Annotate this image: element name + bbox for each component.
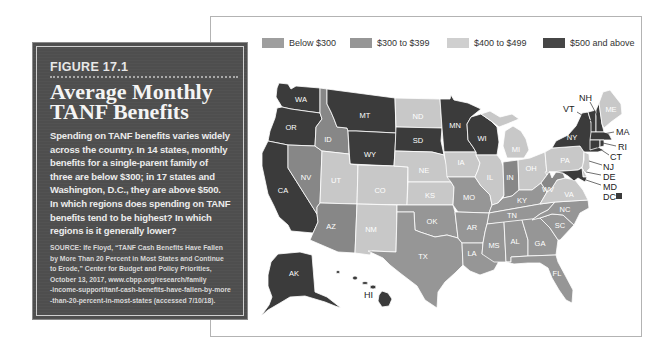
- state-label-AR: AR: [467, 223, 478, 232]
- state-label-CT: CT: [610, 152, 622, 162]
- state-label-NE: NE: [419, 166, 429, 175]
- state-label-MI: MI: [512, 145, 520, 154]
- source-line: -income-support/tanf-cash-benefits-have-…: [50, 285, 231, 296]
- description-line: across the country. In 14 states, monthl…: [50, 143, 230, 157]
- state-CO: [357, 165, 408, 205]
- state-HI: [336, 271, 392, 308]
- state-label-AZ: AZ: [326, 222, 336, 231]
- state-WY: [348, 131, 396, 166]
- state-label-AK: AK: [289, 269, 299, 278]
- leader-line-NJ: [589, 161, 602, 165]
- state-label-OH: OH: [525, 164, 536, 173]
- state-label-LA: LA: [467, 249, 476, 258]
- state-label-TX: TX: [418, 252, 428, 261]
- state-label-DE: DE: [603, 172, 616, 182]
- state-label-NM: NM: [365, 225, 377, 234]
- state-label-CA: CA: [278, 186, 288, 195]
- state-label-KS: KS: [425, 191, 435, 200]
- state-label-KY: KY: [517, 196, 527, 205]
- state-label-WI: WI: [477, 134, 486, 143]
- state-label-TN: TN: [507, 211, 517, 220]
- state-label-OR: OR: [285, 123, 297, 132]
- hi-island: [362, 282, 368, 285]
- description-line: benefits for a single-parent family of: [50, 156, 230, 170]
- state-label-NC: NC: [560, 205, 571, 214]
- state-label-GA: GA: [535, 239, 546, 248]
- state-label-FL: FL: [553, 269, 562, 278]
- state-label-PA: PA: [560, 156, 569, 165]
- state-label-MS: MS: [488, 241, 499, 250]
- state-label-SD: SD: [413, 136, 424, 145]
- state-label-ND: ND: [413, 112, 424, 121]
- state-RI: [600, 140, 604, 147]
- state-label-NJ: NJ: [603, 162, 614, 172]
- state-label-DC: DC: [603, 192, 616, 202]
- figure-caption-box: FIGURE 17.1 Average Monthly TANF Benefit…: [32, 42, 248, 320]
- state-label-VA: VA: [564, 190, 573, 199]
- state-label-MO: MO: [463, 193, 475, 202]
- figure-description: Spending on TANF benefits varies widely …: [50, 129, 230, 238]
- state-label-MN: MN: [449, 121, 461, 130]
- figure-title: Average Monthly TANF Benefits: [50, 82, 213, 122]
- state-label-OK: OK: [427, 217, 438, 226]
- description-line: Washington, D.C., they are above $500.: [50, 183, 230, 197]
- state-label-SC: SC: [555, 221, 566, 230]
- state-label-WV: WV: [542, 185, 554, 194]
- state-label-CO: CO: [374, 186, 385, 195]
- description-line: regions is it generally lower?: [50, 224, 230, 238]
- leader-line-MD: [583, 179, 601, 185]
- state-label-VT: VT: [563, 104, 575, 114]
- state-label-MD: MD: [603, 182, 617, 192]
- figure-number: FIGURE 17.1: [50, 60, 128, 74]
- hi-big-island: [378, 291, 392, 307]
- source-line: by More Than 20 Percent in Most States a…: [50, 254, 231, 265]
- description-line: three are below $300; in 17 states and: [50, 170, 230, 184]
- state-label-AL: AL: [510, 237, 519, 246]
- figure-source: SOURCE: Ife Floyd, “TANF Cash Benefits H…: [50, 243, 231, 307]
- description-line: benefits tend to be highest? In which: [50, 211, 230, 225]
- state-label-MT: MT: [360, 111, 371, 120]
- description-line: In which regions does spending on TANF: [50, 197, 230, 211]
- source-line: October 13, 2017, www.cbpp.org/research/…: [50, 275, 231, 286]
- state-label-HI: HI: [364, 290, 373, 300]
- state-label-NH: NH: [579, 93, 592, 103]
- leader-line-RI: [603, 143, 616, 146]
- state-label-WY: WY: [364, 150, 376, 159]
- hi-island: [336, 271, 340, 274]
- state-label-IA: IA: [457, 158, 464, 167]
- dotted-divider: [50, 76, 238, 78]
- description-line: Spending on TANF benefits varies widely: [50, 129, 230, 143]
- source-line: -than-20-percent-in-most-states (accesse…: [50, 296, 231, 307]
- state-label-WA: WA: [295, 95, 307, 104]
- state-AK: [261, 252, 341, 316]
- hi-island: [353, 276, 358, 280]
- state-label-ID: ID: [324, 135, 332, 144]
- state-label-UT: UT: [331, 176, 341, 185]
- state-label-IL: IL: [487, 173, 493, 182]
- source-line: to Erode,” Center for Budget and Policy …: [50, 264, 231, 275]
- state-label-ME: ME: [605, 105, 616, 114]
- state-FL: [506, 255, 573, 303]
- state-label-MA: MA: [616, 127, 630, 137]
- leader-line-DE: [586, 172, 601, 175]
- title-line: TANF Benefits: [50, 102, 213, 122]
- state-label-IN: IN: [506, 173, 514, 182]
- dc-marker: [616, 193, 622, 199]
- source-line: SOURCE: Ife Floyd, “TANF Cash Benefits H…: [50, 243, 231, 254]
- state-label-NY: NY: [567, 133, 577, 142]
- state-label-NV: NV: [301, 173, 311, 182]
- state-label-RI: RI: [618, 142, 627, 152]
- hi-island: [370, 285, 376, 289]
